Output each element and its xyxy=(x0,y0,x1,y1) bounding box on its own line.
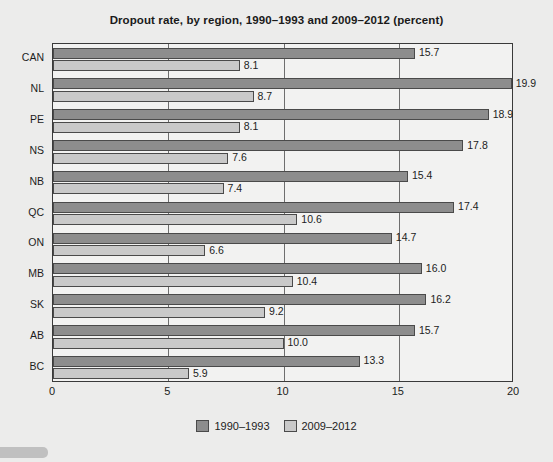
y-axis-category-labels: CANNLPENSNBQCONMBSKABBC xyxy=(0,43,48,382)
bar-value-label: 15.4 xyxy=(412,170,432,181)
bar-on-1990-1993 xyxy=(53,233,392,244)
y-axis-label-can: CAN xyxy=(22,51,44,63)
bar-value-label: 16.2 xyxy=(430,294,450,305)
bar-value-label: 8.1 xyxy=(244,60,259,71)
chart-figure: Dropout rate, by region, 1990–1993 and 2… xyxy=(0,0,553,462)
bar-value-label: 16.0 xyxy=(426,263,446,274)
bar-ab-2009-2012 xyxy=(53,338,284,349)
bar-row: 14.76.6 xyxy=(53,229,512,260)
bar-row: 16.29.2 xyxy=(53,291,512,322)
bar-value-label: 13.3 xyxy=(364,355,384,366)
x-axis-tick: 15 xyxy=(392,385,404,397)
bar-value-label: 19.9 xyxy=(516,78,536,89)
page-scan-artifact xyxy=(0,447,48,458)
bar-on-2009-2012 xyxy=(53,245,205,256)
bar-value-label: 14.7 xyxy=(396,232,416,243)
bar-rows: 15.78.119.98.718.98.117.87.615.47.417.41… xyxy=(53,44,512,381)
bar-bc-2009-2012 xyxy=(53,368,189,379)
bar-sk-1990-1993 xyxy=(53,294,426,305)
legend-swatch xyxy=(284,420,297,432)
bar-row: 18.98.1 xyxy=(53,106,512,137)
legend-swatch xyxy=(196,420,209,432)
bar-row: 17.410.6 xyxy=(53,198,512,229)
y-axis-label-ab: AB xyxy=(30,329,44,341)
bar-ns-1990-1993 xyxy=(53,140,463,151)
bar-nb-2009-2012 xyxy=(53,183,224,194)
bar-row: 15.47.4 xyxy=(53,167,512,198)
legend-item: 1990–1993 xyxy=(196,420,269,432)
bar-ab-1990-1993 xyxy=(53,325,415,336)
x-axis: 05101520 xyxy=(52,385,513,403)
legend-item: 2009–2012 xyxy=(284,420,357,432)
bar-value-label: 17.8 xyxy=(467,140,487,151)
bar-value-label: 10.0 xyxy=(288,337,308,348)
x-axis-tick: 5 xyxy=(164,385,170,397)
legend-label: 2009–2012 xyxy=(302,420,357,432)
bar-value-label: 17.4 xyxy=(458,201,478,212)
bar-value-label: 15.7 xyxy=(419,47,439,58)
bar-can-2009-2012 xyxy=(53,60,240,71)
y-axis-label-sk: SK xyxy=(30,298,44,310)
bar-value-label: 9.2 xyxy=(269,306,284,317)
bar-row: 15.710.0 xyxy=(53,321,512,352)
bar-row: 16.010.4 xyxy=(53,260,512,291)
bar-row: 19.98.7 xyxy=(53,75,512,106)
bar-mb-1990-1993 xyxy=(53,263,422,274)
x-axis-tick: 20 xyxy=(507,385,519,397)
bar-row: 15.78.1 xyxy=(53,44,512,75)
x-axis-tick: 0 xyxy=(49,385,55,397)
bar-sk-2009-2012 xyxy=(53,307,265,318)
bar-nb-1990-1993 xyxy=(53,171,408,182)
y-axis-label-pe: PE xyxy=(30,113,44,125)
y-axis-label-nb: NB xyxy=(29,175,44,187)
bar-nl-1990-1993 xyxy=(53,78,512,89)
bar-value-label: 10.6 xyxy=(301,214,321,225)
bar-value-label: 15.7 xyxy=(419,325,439,336)
plot-area: 15.78.119.98.718.98.117.87.615.47.417.41… xyxy=(52,43,513,382)
bar-row: 13.35.9 xyxy=(53,352,512,383)
bar-value-label: 18.9 xyxy=(493,109,513,120)
bar-nl-2009-2012 xyxy=(53,91,254,102)
bar-value-label: 8.1 xyxy=(244,121,259,132)
chart-legend: 1990–19932009–2012 xyxy=(0,420,553,432)
bar-qc-1990-1993 xyxy=(53,202,454,213)
bar-can-1990-1993 xyxy=(53,48,415,59)
y-axis-label-mb: MB xyxy=(28,267,44,279)
y-axis-label-bc: BC xyxy=(29,360,44,372)
bar-value-label: 7.6 xyxy=(232,152,247,163)
bar-qc-2009-2012 xyxy=(53,214,297,225)
bar-mb-2009-2012 xyxy=(53,276,293,287)
bar-value-label: 8.7 xyxy=(258,91,273,102)
bar-value-label: 5.9 xyxy=(193,368,208,379)
y-axis-label-ns: NS xyxy=(29,144,44,156)
x-axis-tick: 10 xyxy=(276,385,288,397)
bar-value-label: 10.4 xyxy=(297,276,317,287)
bar-value-label: 6.6 xyxy=(209,245,224,256)
bar-value-label: 7.4 xyxy=(228,183,243,194)
bar-bc-1990-1993 xyxy=(53,356,360,367)
y-axis-label-qc: QC xyxy=(28,206,44,218)
chart-title: Dropout rate, by region, 1990–1993 and 2… xyxy=(0,14,553,26)
bar-pe-1990-1993 xyxy=(53,109,489,120)
legend-label: 1990–1993 xyxy=(214,420,269,432)
bar-pe-2009-2012 xyxy=(53,122,240,133)
bar-row: 17.87.6 xyxy=(53,136,512,167)
y-axis-label-on: ON xyxy=(28,236,44,248)
y-axis-label-nl: NL xyxy=(31,82,44,94)
bar-ns-2009-2012 xyxy=(53,153,228,164)
